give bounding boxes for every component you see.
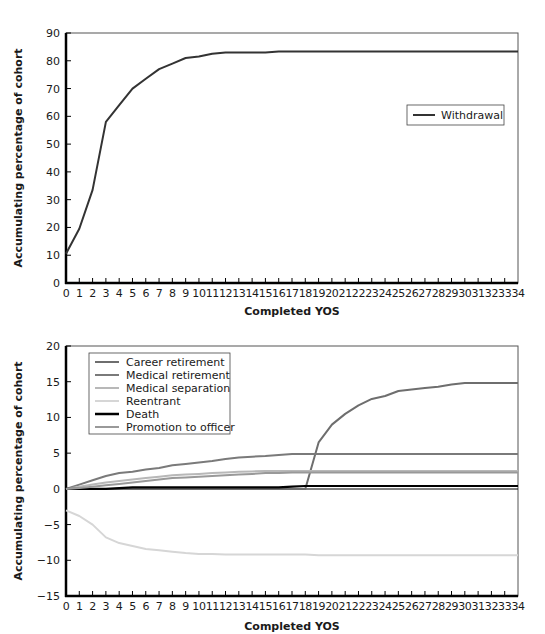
x-tick-label: 23: [365, 600, 379, 613]
x-tick-label: 1: [76, 287, 83, 300]
x-tick-label: 11: [206, 287, 219, 300]
x-tick-label: 33: [498, 600, 512, 613]
x-tick-label: 8: [169, 287, 176, 300]
x-tick-label: 3: [103, 287, 110, 300]
x-tick-label: 9: [182, 600, 189, 613]
x-tick-label: 29: [445, 287, 459, 300]
x-tick-label: 0: [63, 287, 70, 300]
x-tick-label: 14: [246, 287, 260, 300]
y-tick-label: 40: [46, 166, 60, 179]
legend-label: Reentrant: [126, 395, 181, 408]
x-tick-label: 26: [405, 600, 419, 613]
x-axis-title: Completed YOS: [244, 620, 340, 633]
y-tick-label: −10: [37, 554, 60, 567]
y-tick-label: 0: [53, 277, 60, 290]
x-tick-label: 28: [432, 600, 446, 613]
x-tick-label: 17: [285, 287, 299, 300]
y-tick-label: 10: [46, 249, 60, 262]
y-tick-label: 0: [53, 483, 60, 496]
y-tick-label: 70: [46, 83, 60, 96]
x-tick-label: 10: [192, 287, 206, 300]
x-tick-label: 27: [418, 600, 432, 613]
y-tick-label: −5: [44, 519, 60, 532]
y-tick-label: 50: [46, 138, 60, 151]
legend-label: Medical retirement: [126, 369, 231, 382]
x-tick-label: 3: [103, 600, 110, 613]
x-tick-label: 4: [116, 600, 123, 613]
y-axis-title: Accumulating percentage of cohort: [12, 48, 25, 267]
x-tick-label: 7: [156, 287, 163, 300]
legend: Withdrawal: [407, 105, 504, 125]
x-tick-label: 25: [392, 287, 406, 300]
x-tick-label: 26: [405, 287, 419, 300]
x-tick-label: 8: [169, 600, 176, 613]
legend-label: Promotion to officer: [126, 421, 235, 434]
x-tick-label: 16: [272, 287, 286, 300]
x-tick-label: 22: [352, 287, 365, 300]
x-tick-label: 12: [219, 287, 232, 300]
x-tick-label: 33: [498, 287, 512, 300]
x-tick-label: 9: [182, 287, 189, 300]
x-tick-label: 20: [325, 287, 339, 300]
y-tick-label: 90: [46, 27, 60, 40]
y-tick-label: 5: [53, 447, 60, 460]
x-tick-label: 21: [339, 287, 352, 300]
x-tick-label: 30: [458, 600, 472, 613]
x-tick-label: 0: [63, 600, 70, 613]
legend-label: Death: [126, 408, 159, 421]
x-tick-label: 19: [312, 287, 326, 300]
x-tick-label: 24: [378, 287, 392, 300]
legend-label: Career retirement: [126, 356, 225, 369]
series-reentrant: [66, 510, 518, 555]
x-tick-label: 14: [246, 600, 260, 613]
x-tick-label: 21: [339, 600, 352, 613]
y-tick-label: 20: [46, 340, 60, 353]
x-tick-label: 25: [392, 600, 406, 613]
x-tick-label: 24: [378, 600, 392, 613]
x-tick-label: 34: [511, 287, 525, 300]
x-tick-label: 32: [485, 600, 498, 613]
x-tick-label: 20: [325, 600, 339, 613]
y-tick-label: 15: [46, 376, 60, 389]
x-tick-label: 12: [219, 600, 232, 613]
x-tick-label: 19: [312, 600, 326, 613]
x-tick-label: 15: [259, 600, 273, 613]
x-tick-label: 10: [192, 600, 206, 613]
x-tick-label: 30: [458, 287, 472, 300]
x-tick-label: 31: [472, 600, 485, 613]
x-ticks: 0123456789101112131415161718192021222324…: [63, 278, 525, 300]
legend: Career retirementMedical retirementMedic…: [89, 353, 235, 434]
x-tick-label: 17: [285, 600, 299, 613]
y-tick-label: 20: [46, 221, 60, 234]
x-tick-label: 13: [232, 600, 246, 613]
y-tick-label: 60: [46, 110, 60, 123]
x-tick-label: 7: [156, 600, 163, 613]
figure: 0102030405060708090 01234567891011121314…: [0, 0, 545, 634]
x-ticks: 0123456789101112131415161718192021222324…: [63, 591, 525, 613]
x-tick-label: 23: [365, 287, 379, 300]
legend-label: Medical separation: [126, 382, 230, 395]
x-tick-label: 1: [76, 600, 83, 613]
y-tick-label: −15: [37, 590, 60, 603]
y-tick-label: 10: [46, 411, 60, 424]
y-axis-title: Accumulating percentage of cohort: [12, 361, 25, 580]
x-tick-label: 5: [129, 287, 136, 300]
y-tick-label: 30: [46, 194, 60, 207]
x-tick-label: 28: [432, 287, 446, 300]
x-tick-label: 27: [418, 287, 432, 300]
x-tick-label: 2: [89, 287, 96, 300]
legend-label-withdrawal: Withdrawal: [441, 109, 503, 122]
x-axis-title: Completed YOS: [244, 305, 340, 318]
x-tick-label: 29: [445, 600, 459, 613]
separation-types-chart: −15−10−505101520 01234567891011121314151…: [12, 340, 525, 633]
x-tick-label: 11: [206, 600, 219, 613]
series-lines: [66, 52, 518, 254]
x-tick-label: 18: [299, 600, 313, 613]
x-tick-label: 16: [272, 600, 286, 613]
series-withdrawal: [66, 52, 518, 254]
x-tick-label: 22: [352, 600, 365, 613]
plot-frame: [66, 33, 518, 283]
x-tick-label: 34: [511, 600, 525, 613]
x-tick-label: 15: [259, 287, 273, 300]
withdrawal-chart: 0102030405060708090 01234567891011121314…: [12, 27, 525, 318]
